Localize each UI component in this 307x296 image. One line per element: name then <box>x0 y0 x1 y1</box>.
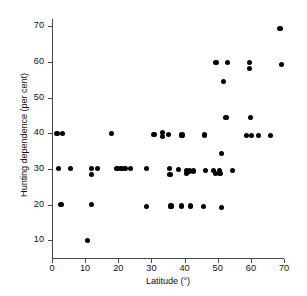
data-point <box>89 166 94 171</box>
data-point <box>176 167 181 172</box>
data-point <box>247 66 252 71</box>
data-point <box>144 204 149 209</box>
data-point <box>219 205 224 210</box>
data-point <box>249 133 254 138</box>
data-point <box>248 115 253 120</box>
data-point <box>95 166 100 171</box>
data-point <box>68 166 73 171</box>
data-point <box>221 79 226 84</box>
data-point <box>122 166 127 171</box>
data-point <box>151 132 156 137</box>
data-point <box>213 60 218 65</box>
data-point <box>167 172 172 177</box>
data-point <box>191 168 196 173</box>
data-point <box>168 203 173 208</box>
data-point <box>179 203 184 208</box>
data-point <box>54 131 59 136</box>
data-point <box>277 26 282 31</box>
data-point <box>217 171 222 176</box>
data-point <box>202 132 207 137</box>
data-point <box>56 166 61 171</box>
scatter-chart-figure: Hunting dependence (per cent) Latitude (… <box>0 0 307 296</box>
data-point <box>160 134 165 139</box>
data-point <box>230 168 235 173</box>
data-point <box>188 203 193 208</box>
data-point <box>109 131 114 136</box>
data-point <box>144 166 149 171</box>
data-point <box>60 131 65 136</box>
data-point <box>128 166 133 171</box>
data-point <box>225 60 230 65</box>
data-point <box>247 60 252 65</box>
data-point <box>219 151 224 156</box>
data-point <box>89 172 94 177</box>
data-point <box>256 133 261 138</box>
data-point <box>223 115 228 120</box>
data-point <box>179 132 184 137</box>
data-point <box>166 132 171 137</box>
data-point <box>167 166 172 171</box>
data-point <box>203 168 208 173</box>
plot-area <box>0 0 307 296</box>
data-point <box>279 62 284 67</box>
data-point <box>201 204 206 209</box>
data-point <box>58 202 63 207</box>
data-point <box>89 202 94 207</box>
data-point <box>85 238 90 243</box>
data-point <box>268 133 273 138</box>
